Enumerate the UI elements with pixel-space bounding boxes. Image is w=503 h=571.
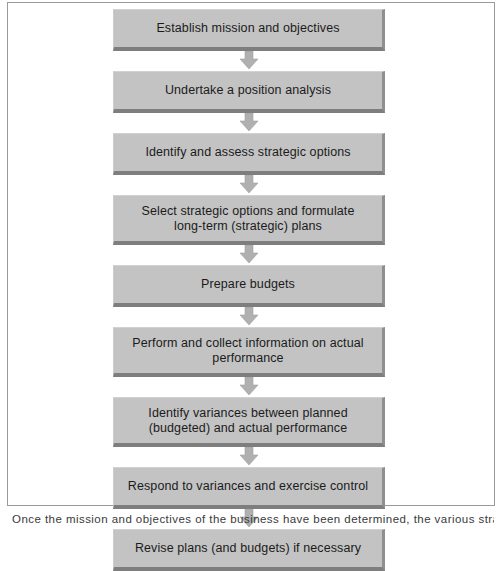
process-box-label: Perform and collect information on actua…	[124, 332, 371, 370]
process-box-prepare-budgets: Prepare budgets	[113, 265, 385, 307]
flow-node: Identify variances between planned (budg…	[113, 397, 391, 447]
down-block-arrow-icon	[239, 113, 259, 132]
flow-node: Select strategic options and formulate l…	[113, 195, 391, 245]
process-box-label: Establish mission and objectives	[148, 17, 347, 40]
connector-arrow-3	[113, 175, 385, 195]
figure-caption: Once the mission and objectives of the b…	[12, 512, 494, 526]
process-box-assess-strategic-options: Identify and assess strategic options	[113, 133, 385, 175]
flow-node: Revise plans (and budgets) if necessary	[113, 529, 391, 571]
process-box-label: Prepare budgets	[193, 273, 303, 296]
process-box-respond-to-variances: Respond to variances and exercise contro…	[113, 467, 385, 509]
figure-frame: Establish mission and objectives Underta…	[7, 2, 495, 506]
flow-node: Establish mission and objectives	[113, 9, 391, 51]
process-box-label: Undertake a position analysis	[157, 79, 339, 102]
flow-node: Identify and assess strategic options	[113, 133, 391, 175]
connector-arrow-5	[113, 307, 385, 327]
connector-arrow-6	[113, 377, 385, 397]
down-block-arrow-icon	[239, 175, 259, 194]
process-box-label: Identify and assess strategic options	[137, 141, 358, 164]
process-box-establish-mission: Establish mission and objectives	[113, 9, 385, 51]
flowchart-column: Establish mission and objectives Underta…	[113, 9, 398, 571]
down-block-arrow-icon	[239, 307, 259, 326]
process-box-position-analysis: Undertake a position analysis	[113, 71, 385, 113]
process-box-identify-variances: Identify variances between planned (budg…	[113, 397, 385, 447]
connector-arrow-4	[113, 245, 385, 265]
process-box-label: Revise plans (and budgets) if necessary	[127, 537, 369, 560]
down-block-arrow-icon	[239, 245, 259, 264]
process-box-revise-plans: Revise plans (and budgets) if necessary	[113, 529, 385, 571]
process-box-label: Identify variances between planned (budg…	[140, 402, 355, 440]
connector-arrow-2	[113, 113, 385, 133]
down-block-arrow-icon	[239, 377, 259, 396]
process-box-collect-actual-performance: Perform and collect information on actua…	[113, 327, 385, 377]
process-box-label: Respond to variances and exercise contro…	[120, 475, 376, 498]
flow-node: Respond to variances and exercise contro…	[113, 467, 391, 509]
down-block-arrow-icon	[239, 447, 259, 466]
flow-node: Prepare budgets	[113, 265, 391, 307]
connector-arrow-7	[113, 447, 385, 467]
process-box-select-strategic-options: Select strategic options and formulate l…	[113, 195, 385, 245]
flow-node: Undertake a position analysis	[113, 71, 391, 113]
flow-node: Perform and collect information on actua…	[113, 327, 391, 377]
connector-arrow-1	[113, 51, 385, 71]
process-box-label: Select strategic options and formulate l…	[134, 200, 363, 238]
down-block-arrow-icon	[239, 51, 259, 70]
